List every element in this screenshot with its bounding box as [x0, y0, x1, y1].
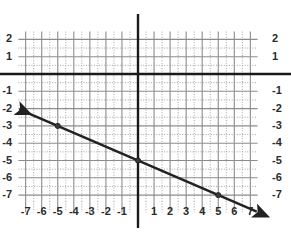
- y-axis-label-left: -6: [0, 172, 12, 183]
- data-point: [216, 193, 221, 198]
- y-axis-label-right: -4: [272, 137, 291, 148]
- x-axis-label: -1: [113, 206, 131, 217]
- coordinate-graph: 2211-1-1-2-2-3-3-4-4-5-5-6-6-7-7-7-6-5-4…: [0, 0, 291, 240]
- y-axis-label-left: -7: [0, 189, 12, 200]
- y-axis-label-left: 2: [0, 33, 12, 44]
- x-axis-label: 7: [241, 206, 259, 217]
- graph-canvas: [0, 0, 291, 240]
- y-axis-label-right: -3: [272, 120, 291, 131]
- y-axis-label-left: -2: [0, 103, 12, 114]
- y-axis-label-left: -4: [0, 137, 12, 148]
- y-axis-label-left: -3: [0, 120, 12, 131]
- data-point: [135, 158, 140, 163]
- y-axis-label-left: 1: [0, 51, 12, 62]
- y-axis-label-left: -1: [0, 85, 12, 96]
- y-axis-label-right: -1: [272, 85, 291, 96]
- y-axis-label-right: 2: [272, 33, 291, 44]
- y-axis-label-right: -7: [272, 189, 291, 200]
- y-axis-label-right: 1: [272, 51, 291, 62]
- y-axis-label-right: -5: [272, 155, 291, 166]
- data-point: [55, 123, 60, 128]
- y-axis-label-right: -6: [272, 172, 291, 183]
- y-axis-label-right: -2: [272, 103, 291, 114]
- y-axis-label-left: -5: [0, 155, 12, 166]
